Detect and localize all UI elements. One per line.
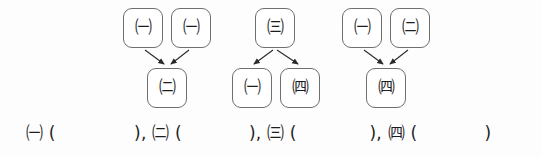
circled-letter-digeut-icon: ㈢ [267, 19, 284, 36]
node-box-g2-bottom-right: ㈣ [280, 68, 320, 108]
node-box-g1-bottom: ㈡ [147, 68, 187, 108]
circled-letter-nieun-icon: ㈡ [402, 19, 419, 36]
node-box-g2-top: ㈢ [255, 8, 295, 48]
arrow-g1-right [171, 50, 189, 64]
arrow-g2-left [254, 50, 273, 64]
node-box-g3-bottom: ㈣ [366, 68, 406, 108]
arrow-g3-right [390, 50, 408, 64]
arrow-g3-left [364, 50, 383, 64]
worksheet-page: ㈠ ㈠ ㈡ ㈢ ㈠ ㈣ ㈠ ㈡ ㈣ ㈠ ( ), ㈡ ( ), ㈢ ( ), ㈣… [0, 0, 541, 157]
answer-blank-line[interactable]: ㈠ ( ), ㈡ ( ), ㈢ ( ), ㈣ ( ) [0, 118, 541, 150]
node-box-g3-top-left: ㈠ [342, 8, 382, 48]
node-box-g3-top-right: ㈡ [390, 8, 430, 48]
circled-letter-giyeok-icon: ㈠ [183, 19, 200, 36]
node-box-g1-top-left: ㈠ [123, 8, 163, 48]
circled-letter-nieun-icon: ㈡ [159, 79, 176, 96]
arrow-g2-right [277, 50, 298, 64]
circled-letter-giyeok-icon: ㈠ [135, 19, 152, 36]
node-box-g2-bottom-left: ㈠ [232, 68, 272, 108]
circled-letter-rieul-icon: ㈣ [292, 79, 309, 96]
node-box-g1-top-right: ㈠ [171, 8, 211, 48]
arrow-g1-left [145, 50, 164, 64]
circled-letter-giyeok-icon: ㈠ [244, 79, 261, 96]
circled-letter-rieul-icon: ㈣ [378, 79, 395, 96]
circled-letter-giyeok-icon: ㈠ [354, 19, 371, 36]
